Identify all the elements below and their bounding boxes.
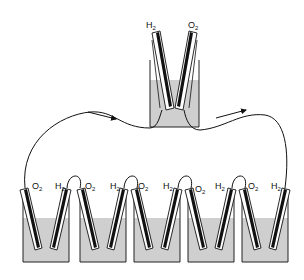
cell2-o2-label: O2 [85,181,96,192]
link-wire-3-4 [178,176,192,188]
electrolysis-diagram: H2 O2 [0,0,304,280]
cell5-h2-label: H2 [271,181,282,192]
link-wire-4-5 [232,176,246,188]
cell1-o2-label: O2 [32,181,43,192]
bottom-cell-2 [77,188,128,262]
cell2-h2-label: H2 [110,181,121,192]
left-feed-wire [25,110,162,188]
right-flow-arrow [216,110,246,118]
cell1-h2-label: H2 [55,181,66,192]
cell5-o2-label: O2 [248,181,259,192]
top-h2-label: H2 [146,20,157,31]
bottom-cell-3 [131,188,182,262]
cell4-h2-label: H2 [215,181,226,192]
top-o2-label: O2 [188,20,199,31]
cell3-h2-label: H2 [163,181,174,192]
link-wire-2-3 [124,176,138,188]
top-cell: H2 O2 [146,20,199,127]
cell3-o2-label: O2 [138,181,149,192]
bottom-cell-1 [20,188,71,262]
bottom-cell-5 [239,188,290,262]
bottom-cell-4 [185,188,236,262]
link-wire-1-2 [67,176,81,188]
cell4-o2-label: O2 [195,184,206,195]
